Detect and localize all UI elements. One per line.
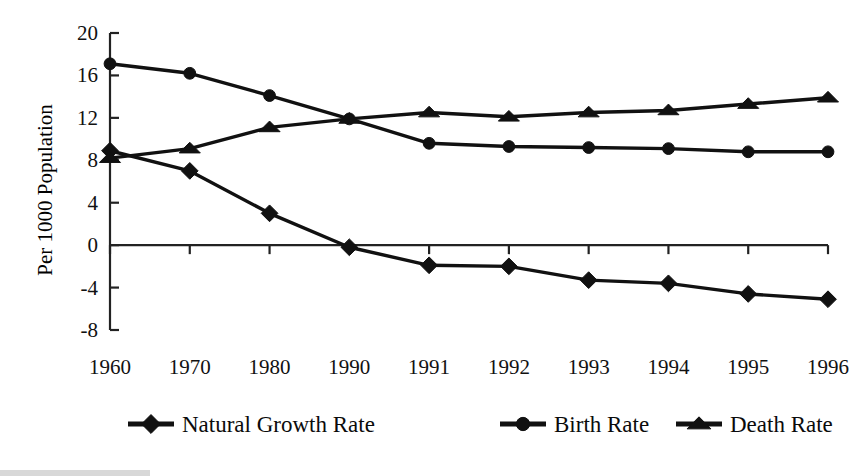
data-point bbox=[663, 143, 675, 155]
x-tick-label: 1960 bbox=[89, 355, 131, 379]
data-point bbox=[503, 141, 515, 153]
data-point bbox=[261, 205, 278, 222]
data-point bbox=[501, 258, 518, 275]
x-tick-label: 1995 bbox=[727, 355, 769, 379]
data-point bbox=[820, 291, 837, 308]
data-point bbox=[181, 163, 198, 180]
y-tick-label: -4 bbox=[81, 276, 99, 300]
data-point bbox=[264, 90, 276, 102]
y-tick-label: 20 bbox=[77, 21, 98, 45]
chart-legend: Natural Growth RateBirth RateDeath Rate bbox=[128, 412, 833, 437]
data-point bbox=[184, 67, 196, 79]
x-tick-label: 1992 bbox=[488, 355, 530, 379]
y-tick-label: 16 bbox=[77, 63, 98, 87]
line-chart: Per 1000 Population 201612840-4-8 196019… bbox=[0, 0, 868, 476]
data-point bbox=[423, 137, 435, 149]
data-point bbox=[421, 257, 438, 274]
legend-marker-diamond bbox=[142, 415, 161, 434]
data-point bbox=[104, 58, 116, 70]
data-point bbox=[822, 146, 834, 158]
page-scan-artifact bbox=[0, 470, 150, 476]
series-layer bbox=[99, 58, 838, 308]
x-tick-label: 1993 bbox=[568, 355, 610, 379]
y-tick-label: 12 bbox=[77, 106, 98, 130]
y-tick-label: 4 bbox=[88, 191, 99, 215]
legend-item-death-rate[interactable]: Death Rate bbox=[676, 412, 833, 437]
data-point bbox=[580, 272, 597, 289]
legend-label: Death Rate bbox=[730, 412, 833, 437]
data-point bbox=[742, 146, 754, 158]
data-point bbox=[341, 239, 358, 256]
x-tick-label: 1980 bbox=[249, 355, 291, 379]
data-point bbox=[583, 142, 595, 154]
legend-marker-circle bbox=[516, 417, 529, 430]
y-axis-title-text: Per 1000 Population bbox=[33, 104, 57, 276]
chart-container: Per 1000 Population 201612840-4-8 196019… bbox=[0, 0, 868, 476]
series-natural-growth-rate bbox=[102, 142, 837, 307]
x-tick-label: 1996 bbox=[807, 355, 849, 379]
y-axis-title: Per 1000 Population bbox=[33, 104, 57, 276]
axis-lines bbox=[110, 33, 828, 330]
y-tick-label: 8 bbox=[88, 148, 99, 172]
y-tick-label: 0 bbox=[88, 233, 99, 257]
data-point bbox=[660, 275, 677, 292]
x-tick-label: 1994 bbox=[647, 355, 690, 379]
legend-item-natural-growth-rate[interactable]: Natural Growth Rate bbox=[128, 412, 375, 437]
legend-item-birth-rate[interactable]: Birth Rate bbox=[500, 412, 649, 437]
legend-label: Birth Rate bbox=[554, 412, 649, 437]
legend-label: Natural Growth Rate bbox=[182, 412, 375, 437]
x-tick-label: 1990 bbox=[328, 355, 370, 379]
y-tick-label: -8 bbox=[81, 318, 99, 342]
x-tick-label: 1991 bbox=[408, 355, 450, 379]
x-tick-label: 1970 bbox=[169, 355, 211, 379]
data-point bbox=[740, 286, 757, 303]
